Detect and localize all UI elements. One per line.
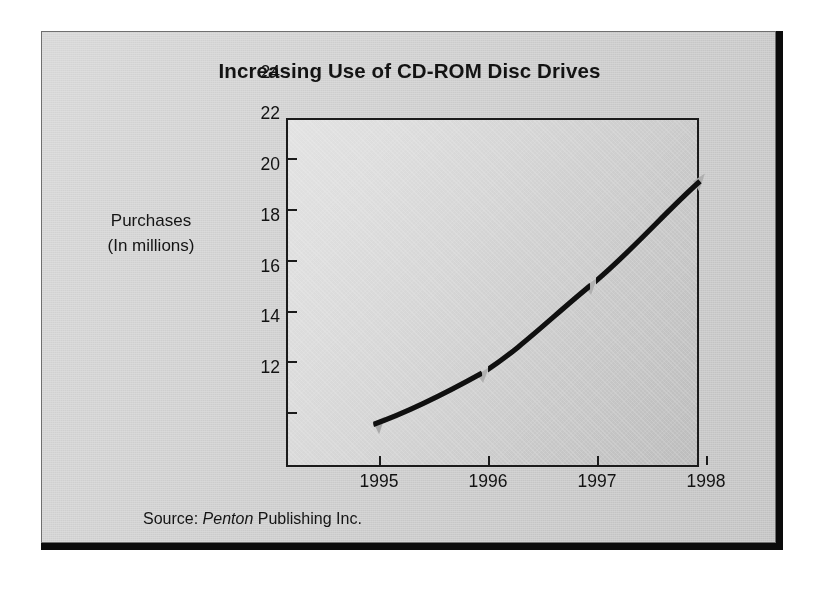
y-tick-label: 14 — [236, 308, 280, 326]
x-tick-mark — [706, 456, 708, 465]
data-series-line — [288, 120, 697, 465]
figure-root: Increasing Use of CD-ROM Disc Drives Pur… — [0, 0, 813, 598]
chart-title: Increasing Use of CD-ROM Disc Drives — [42, 59, 777, 83]
y-tick-label: 18 — [236, 207, 280, 225]
line-segment-1997-1998 — [591, 181, 700, 285]
source-suffix: Publishing Inc. — [258, 510, 362, 527]
y-tick-label-group: 24 22 20 18 16 14 12 — [228, 32, 280, 552]
y-tick-label: 24 — [236, 64, 280, 82]
x-tick-label-group: 1995 1996 1997 1998 — [286, 473, 699, 501]
source-publisher-name: Penton — [203, 510, 254, 527]
x-tick-label: 1997 — [557, 473, 637, 491]
x-tick-label: 1996 — [448, 473, 528, 491]
y-tick-label: 16 — [236, 258, 280, 276]
line-segment-1996-1997 — [482, 285, 591, 373]
y-tick-label: 22 — [236, 105, 280, 123]
y-tick-label: 12 — [236, 359, 280, 377]
plot-area — [286, 118, 699, 467]
source-note: Source: Penton Publishing Inc. — [143, 510, 362, 528]
y-tick-label: 20 — [236, 156, 280, 174]
y-axis-label-line2: (In millions) — [61, 234, 241, 259]
y-axis-label: Purchases (In millions) — [61, 209, 241, 258]
x-tick-label: 1995 — [339, 473, 419, 491]
source-prefix: Source: — [143, 510, 198, 527]
line-segment-1995-1996 — [373, 373, 482, 424]
x-tick-label: 1998 — [666, 473, 746, 491]
chart-panel: Increasing Use of CD-ROM Disc Drives Pur… — [41, 31, 776, 543]
y-axis-label-line1: Purchases — [61, 209, 241, 234]
